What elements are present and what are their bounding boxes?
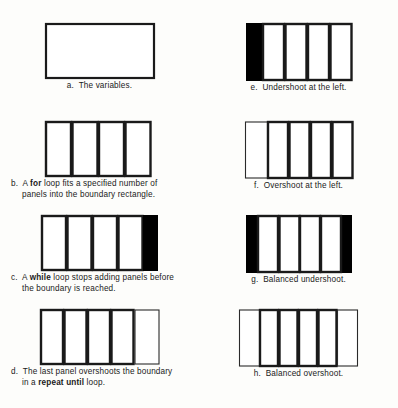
- caption-line-1: b. A for loop fits a specified number of: [22, 178, 189, 189]
- caption-line: e. Undershoot at the left.: [199, 82, 398, 93]
- paneled-rectangle-drawing: [245, 22, 353, 82]
- caption-line-2: in a repeat until loop.: [22, 377, 189, 388]
- figure-f-art: [244, 120, 354, 180]
- figure-a-caption: a. The variables.: [0, 80, 199, 91]
- figure-c-art: [40, 214, 160, 272]
- figure-f-caption: f. Overshoot at the left.: [199, 180, 398, 191]
- thin-overshoot-right: [337, 310, 357, 366]
- figure-sheet: a. The variables. b. A for loop fits a s…: [0, 0, 398, 408]
- paneled-rectangle-drawing: [44, 120, 156, 178]
- caption-line: h. Balanced overshoot.: [199, 368, 398, 379]
- figure-d: d. The last panel overshoots the boundar…: [0, 308, 199, 388]
- paneled-rectangle-drawing: [39, 308, 161, 366]
- figure-d-art: [39, 308, 161, 366]
- figure-e-caption: e. Undershoot at the left.: [199, 82, 398, 93]
- paneled-rectangle-drawing: [238, 308, 360, 368]
- empty-rectangle-drawing: [44, 22, 156, 80]
- figure-h: h. Balanced overshoot.: [199, 308, 398, 379]
- figure-c-caption: c. A while loop stops adding panels befo…: [0, 272, 199, 294]
- paneled-rectangle-drawing: [40, 214, 160, 272]
- caption-line: g. Balanced undershoot.: [199, 274, 398, 285]
- black-block-right: [143, 215, 158, 271]
- caption-line-1: d. The last panel overshoots the boundar…: [22, 366, 189, 377]
- figure-f: f. Overshoot at the left.: [199, 120, 398, 191]
- paneled-rectangle-drawing: [245, 214, 353, 274]
- right-column: e. Undershoot at the left. f. Overshoot …: [199, 0, 398, 408]
- figure-a: a. The variables.: [0, 22, 199, 91]
- figure-g-art: [245, 214, 353, 274]
- figure-b: b. A for loop fits a specified number of…: [0, 120, 199, 200]
- keyword-while: while: [30, 273, 51, 282]
- caption-line: f. Overshoot at the left.: [199, 180, 398, 191]
- caption-line-1: c. A while loop stops adding panels befo…: [22, 272, 189, 283]
- thin-overshoot-left: [239, 310, 259, 366]
- caption-line-2: the boundary is reached.: [22, 283, 189, 294]
- figure-b-caption: b. A for loop fits a specified number of…: [0, 178, 199, 200]
- figure-b-art: [44, 120, 156, 178]
- keyword-repeat-until: repeat until: [38, 378, 84, 387]
- figure-h-caption: h. Balanced overshoot.: [199, 368, 398, 379]
- figure-g-caption: g. Balanced undershoot.: [199, 274, 398, 285]
- black-block-left: [246, 215, 258, 273]
- paneled-rectangle-drawing: [244, 120, 354, 180]
- caption-line-2: panels into the boundary rectangle.: [22, 189, 189, 200]
- thin-overshoot-left: [245, 122, 267, 178]
- figure-h-art: [238, 308, 360, 368]
- figure-d-caption: d. The last panel overshoots the boundar…: [0, 366, 199, 388]
- black-block-left: [246, 23, 263, 81]
- caption-line: a. The variables.: [0, 80, 199, 91]
- figure-g: g. Balanced undershoot.: [199, 214, 398, 285]
- figure-e-art: [245, 22, 353, 82]
- thin-overshoot-right: [135, 310, 159, 364]
- figure-c: c. A while loop stops adding panels befo…: [0, 214, 199, 294]
- figure-e: e. Undershoot at the left.: [199, 22, 398, 93]
- left-column: a. The variables. b. A for loop fits a s…: [0, 0, 199, 408]
- keyword-for: for: [30, 179, 41, 188]
- figure-a-art: [44, 22, 156, 80]
